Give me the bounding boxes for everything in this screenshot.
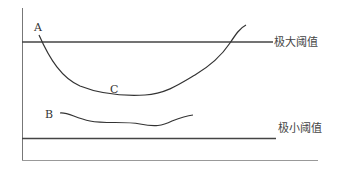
threshold-diagram: A B C 极大阈值 极小阈值 xyxy=(0,0,337,170)
label-c: C xyxy=(110,83,118,96)
label-a: A xyxy=(33,21,43,34)
lower-threshold-label: 极小阈值 xyxy=(278,121,322,135)
curve-a-c xyxy=(39,25,246,95)
label-b: B xyxy=(45,108,53,121)
curve-b xyxy=(60,113,193,126)
upper-threshold-label: 极大阈值 xyxy=(274,35,318,49)
